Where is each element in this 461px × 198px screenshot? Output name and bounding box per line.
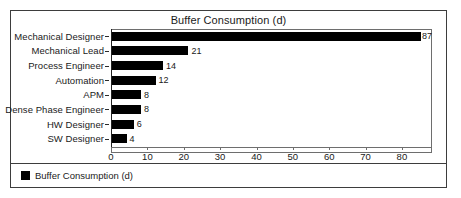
bar[interactable] (112, 61, 163, 70)
bar-value-label: 6 (137, 119, 142, 129)
x-axis-tick-label: 60 (324, 151, 335, 162)
bar-row: 14 (112, 58, 432, 73)
bar-row: 6 (112, 117, 432, 132)
x-axis-tick-mark (220, 147, 221, 150)
x-axis-tick-mark (257, 147, 258, 150)
y-axis-tick-mark (105, 124, 109, 125)
y-axis-labels: Mechanical DesignerMechanical LeadProces… (13, 29, 109, 146)
chart-widget: Buffer Consumption (d) Mechanical Design… (10, 10, 447, 188)
x-axis-tick-label: 10 (142, 151, 153, 162)
y-axis-tick-label: Mechanical Designer (14, 31, 104, 42)
y-axis-tick-3: Automation (13, 73, 109, 88)
bar-value-label: 4 (130, 134, 135, 144)
legend-swatch-icon (21, 171, 30, 180)
x-axis-tick-mark (111, 147, 112, 150)
bar-row: 8 (112, 88, 432, 103)
y-axis-tick-mark (105, 95, 109, 96)
x-axis-tick-mark (329, 147, 330, 150)
bar-value-label: 87 (422, 31, 432, 41)
y-axis-tick-label: SW Designer (47, 133, 104, 144)
chart-title: Buffer Consumption (d) (11, 12, 446, 29)
bar-row: 21 (112, 44, 432, 59)
y-axis-tick-2: Process Engineer (13, 58, 109, 73)
x-axis-ticks: 01020304050607080 (111, 147, 432, 163)
x-axis-tick-mark (366, 147, 367, 150)
x-axis-tick-label: 0 (108, 151, 113, 162)
y-axis-tick-label: Process Engineer (28, 60, 104, 71)
legend-label: Buffer Consumption (d) (35, 170, 133, 181)
x-axis-tick-mark (147, 147, 148, 150)
bar[interactable] (112, 46, 188, 55)
x-axis-tick-mark (293, 147, 294, 150)
bar-value-label: 21 (191, 46, 201, 56)
bar[interactable] (112, 120, 134, 129)
y-axis-tick-mark (105, 36, 109, 37)
y-axis-tick-mark (105, 51, 109, 52)
y-axis-tick-mark (105, 66, 109, 67)
bar-value-label: 8 (144, 90, 149, 100)
bar-row: 8 (112, 102, 432, 117)
bar-value-label: 12 (159, 75, 169, 85)
y-axis-tick-mark (105, 80, 109, 81)
x-axis-tick-label: 20 (178, 151, 189, 162)
x-axis-tick-label: 70 (360, 151, 371, 162)
y-axis-tick-label: Automation (55, 75, 104, 86)
bar[interactable] (112, 105, 141, 114)
y-axis-tick-6: HW Designer (13, 117, 109, 132)
bar[interactable] (112, 32, 421, 41)
x-axis-tick-label: 30 (215, 151, 226, 162)
bar-value-label: 14 (166, 61, 176, 71)
y-axis-tick-5: Dense Phase Engineer (13, 102, 109, 117)
bar-row: 87 (112, 29, 432, 44)
bar[interactable] (112, 76, 156, 85)
chart-legend: Buffer Consumption (d) (11, 164, 446, 187)
y-axis-tick-label: Mechanical Lead (31, 45, 104, 56)
y-axis-tick-mark (105, 109, 109, 110)
y-axis-tick-label: HW Designer (47, 119, 104, 130)
x-axis-tick-label: 80 (397, 151, 408, 162)
bar[interactable] (112, 90, 141, 99)
bar-row: 4 (112, 131, 432, 146)
x-axis-tick-mark (184, 147, 185, 150)
x-axis-tick-label: 40 (251, 151, 262, 162)
bar-row: 12 (112, 73, 432, 88)
y-axis-tick-mark (105, 139, 109, 140)
y-axis-tick-7: SW Designer (13, 131, 109, 146)
bar[interactable] (112, 134, 127, 143)
y-axis-tick-1: Mechanical Lead (13, 44, 109, 59)
x-axis-tick-label: 50 (288, 151, 299, 162)
y-axis-tick-label: APM (83, 89, 104, 100)
bar-value-label: 8 (144, 104, 149, 114)
y-axis-tick-label: Dense Phase Engineer (5, 104, 104, 115)
y-axis-tick-4: APM (13, 88, 109, 103)
bars-area: 872114128864 (112, 29, 432, 146)
y-axis-tick-0: Mechanical Designer (13, 29, 109, 44)
x-axis-tick-mark (402, 147, 403, 150)
